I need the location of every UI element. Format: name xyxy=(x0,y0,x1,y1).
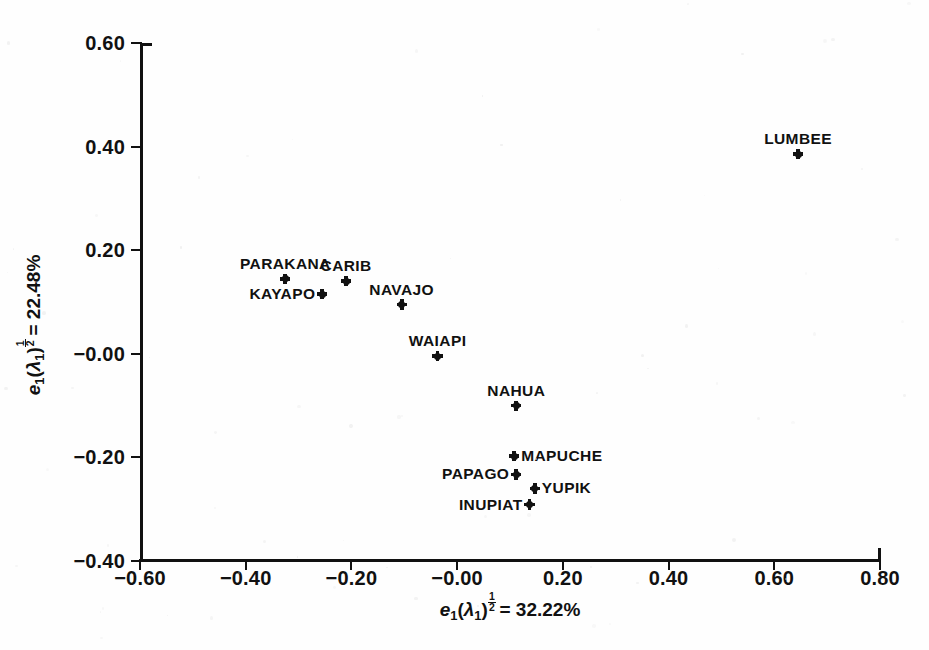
data-point-label: MAPUCHE xyxy=(521,447,602,465)
data-point-label: CARIB xyxy=(321,257,372,275)
data-point-marker xyxy=(398,301,405,308)
data-point-label: PARAKANA xyxy=(240,255,331,273)
paper-speckle xyxy=(71,387,73,389)
data-point-marker xyxy=(513,402,520,409)
data-point-marker xyxy=(434,353,441,360)
x-tick-label: −0.00 xyxy=(431,567,483,590)
paper-speckle xyxy=(386,567,387,568)
paper-speckle xyxy=(590,566,592,568)
x-tick-label: 0.40 xyxy=(649,567,689,590)
paper-speckle xyxy=(901,320,904,323)
x-axis-line xyxy=(140,559,880,562)
x-tick-label: 0.80 xyxy=(860,567,900,590)
paper-speckle xyxy=(907,2,910,5)
paper-speckle xyxy=(687,3,689,5)
data-point-marker xyxy=(526,501,533,508)
y-tick-label: 0.20 xyxy=(85,239,125,262)
paper-speckle xyxy=(7,41,11,45)
y-tick-label: 0.60 xyxy=(85,32,125,55)
y-tick-label: 0.40 xyxy=(85,135,125,158)
x-tick-label: −0.20 xyxy=(326,567,378,590)
x-tick-label: −0.40 xyxy=(220,567,272,590)
paper-speckle xyxy=(597,28,600,31)
data-point-label: WAIAPI xyxy=(409,332,467,350)
data-point-label: PAPAGO xyxy=(442,465,509,483)
paper-speckle xyxy=(4,387,7,390)
y-tick-mark xyxy=(131,353,142,355)
data-point-label: LUMBEE xyxy=(764,130,832,148)
y-tick-mark xyxy=(131,249,142,251)
data-point-marker xyxy=(795,151,802,158)
y-axis-line xyxy=(140,43,143,561)
paper-speckle xyxy=(102,607,105,610)
y-tick-label: −0.20 xyxy=(73,446,125,469)
data-point-label: KAYAPO xyxy=(249,285,315,303)
paper-speckle xyxy=(95,214,98,217)
paper-speckle xyxy=(609,623,611,625)
data-point-label: NAHUA xyxy=(487,382,545,400)
data-point-marker xyxy=(319,291,326,298)
data-point-label: YUPIK xyxy=(542,479,591,497)
y-tick-mark xyxy=(131,146,142,148)
y-axis-title-wrapper: e1(λ1)12 = 22.48% xyxy=(14,0,54,650)
y-tick-mark xyxy=(131,456,142,458)
x-tick-label: −0.60 xyxy=(114,567,166,590)
paper-speckle xyxy=(7,272,8,273)
data-point-marker xyxy=(282,275,289,282)
data-point-marker xyxy=(513,471,520,478)
paper-speckle xyxy=(100,637,103,640)
paper-speckle xyxy=(636,582,639,585)
paper-speckle xyxy=(903,394,906,397)
paper-speckle xyxy=(831,38,834,41)
data-point-marker xyxy=(531,485,538,492)
x-tick-label: 0.60 xyxy=(754,567,794,590)
y-tick-label: −0.00 xyxy=(73,342,125,365)
data-point-label: INUPIAT xyxy=(459,496,523,514)
paper-speckle xyxy=(120,60,122,62)
y-tick-mark xyxy=(131,42,142,44)
paper-speckle xyxy=(592,624,596,628)
data-point-marker xyxy=(511,453,518,460)
paper-speckle xyxy=(107,544,110,547)
paper-speckle xyxy=(100,611,102,613)
y-axis-title: e1(λ1)12 = 22.48% xyxy=(14,0,54,650)
scatter-plot-figure: e1(λ1)12 = 22.48% 0.600.400.20−0.00−0.20… xyxy=(0,0,929,650)
plot-area: 0.600.400.20−0.00−0.20−0.40 −0.60−0.40−0… xyxy=(140,43,880,561)
x-tick-label: 0.20 xyxy=(543,567,583,590)
paper-speckle xyxy=(895,238,898,241)
x-axis-title: e1(λ1)12 = 32.22% xyxy=(140,592,880,623)
data-point-marker xyxy=(343,278,350,285)
data-point-label: NAVAJO xyxy=(369,281,434,299)
